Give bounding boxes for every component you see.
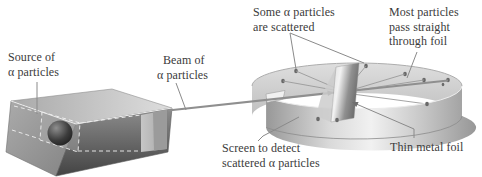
label-line: Source of — [8, 50, 59, 65]
leader-beam — [176, 83, 186, 110]
label-line: Screen to detect — [222, 141, 320, 156]
label-line: Thin metal foil — [390, 140, 463, 155]
label-line: α particles — [8, 65, 59, 80]
source-box — [6, 89, 172, 176]
particle-dot — [425, 102, 429, 107]
rutherford-experiment-diagram: Source of α particles Beam of α particle… — [0, 0, 482, 177]
label-line: Some α particles — [253, 5, 335, 20]
label-line: are scattered — [253, 20, 335, 35]
label-source-of-alpha-particles: Source of α particles — [8, 50, 59, 79]
label-most-particles-pass-straight: Most particles pass straight through foi… — [389, 5, 459, 49]
label-screen-to-detect: Screen to detect scattered α particles — [222, 141, 320, 170]
particle-dot — [316, 117, 320, 122]
label-line: Most particles — [389, 5, 459, 20]
particle-dot — [442, 83, 445, 86]
particle-dot — [335, 118, 339, 123]
label-line: α particles — [157, 68, 208, 83]
channel-hole — [153, 110, 167, 151]
leader-scattered-left — [290, 33, 296, 69]
label-beam-of-alpha-particles: Beam of α particles — [157, 53, 208, 82]
label-line: Beam of — [157, 53, 208, 68]
leader-scattered-right — [290, 33, 364, 63]
label-line: scattered α particles — [222, 156, 320, 171]
alpha-source-sphere — [48, 121, 73, 146]
label-line: through foil — [389, 34, 459, 49]
label-thin-metal-foil: Thin metal foil — [390, 140, 463, 155]
label-some-particles-scattered: Some α particles are scattered — [253, 5, 335, 34]
label-line: pass straight — [389, 20, 459, 35]
